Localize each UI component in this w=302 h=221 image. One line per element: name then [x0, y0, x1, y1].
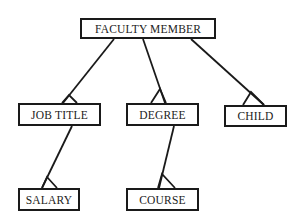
node-salary: SALARY — [18, 188, 80, 211]
node-degree: DEGREE — [126, 103, 199, 126]
node-faculty-member: FACULTY MEMBER — [80, 18, 216, 39]
node-course: COURSE — [126, 188, 199, 211]
node-child: CHILD — [224, 105, 287, 127]
node-job-title: JOB TITLE — [18, 103, 101, 126]
